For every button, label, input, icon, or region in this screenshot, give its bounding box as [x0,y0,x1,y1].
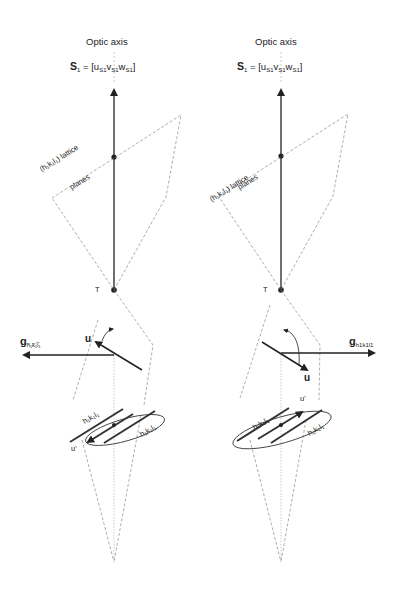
cone-right [281,420,306,562]
left-optic-axis-title: Optic axis [86,36,128,47]
right-point-t-label: T [263,285,268,294]
right-g-label: gh1k1l1 [349,335,373,348]
lattice-plane-outline [219,114,348,290]
right-u-label: u [304,372,310,383]
left-point-t-label: T [95,285,100,294]
lower-plane-right-edge [114,290,153,405]
lower-plane-left-edge [240,305,270,398]
right-u-prime-label: u' [300,394,306,403]
left-u-label: u [85,333,91,344]
u-vector-arrow [96,342,142,370]
left-panel [24,52,374,562]
right-s1-equation: S1 = [uS1vS1wS1] [237,60,302,73]
s1-symbol: S [70,60,77,72]
center-point [279,423,283,427]
u-vector-arrow [262,342,307,370]
cone-left [250,440,281,562]
angle-arc [102,329,113,341]
right-optic-axis-title: Optic axis [255,36,297,47]
center-point [112,423,116,427]
left-s1-equation: S1 = [uS1vS1wS1] [70,60,135,73]
cone-right [114,415,141,562]
left-g-label: gh̅₁k̅₁l̅₁ [20,335,40,348]
cone-left [82,440,114,562]
lower-plane-right-edge [281,290,320,400]
left-u-prime-label: u' [71,444,77,453]
diagram-canvas [0,0,399,591]
s1-symbol: S [237,60,244,72]
angle-arc-head [284,330,288,331]
lower-plane-left-edge [73,320,98,400]
lattice-plane-outline [52,115,181,290]
